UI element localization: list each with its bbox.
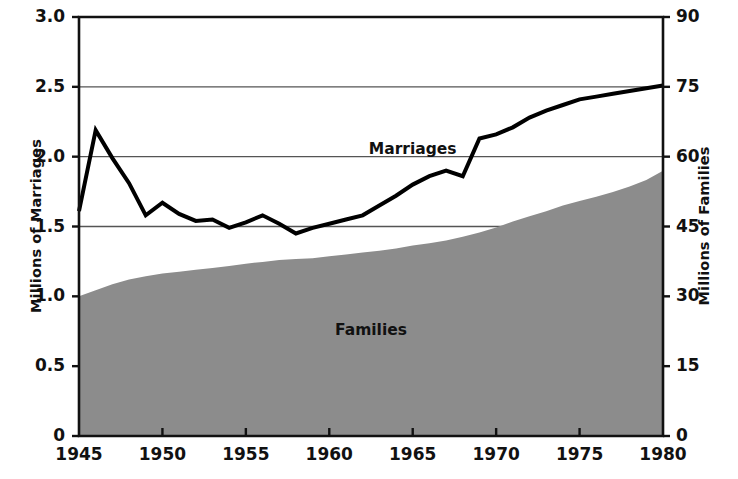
series-annotation: Marriages	[369, 140, 457, 158]
x-axis-tick-label: 1955	[216, 444, 276, 464]
x-axis-tick-label: 1950	[132, 444, 192, 464]
chart-figure: Millions of Marriages Millions of Famili…	[0, 0, 738, 479]
y-axis-left-tick-label: 3.0	[19, 6, 65, 26]
x-axis-tick-label: 1975	[550, 444, 610, 464]
y-axis-right-tick-label: 75	[676, 76, 722, 96]
x-axis-tick-label: 1980	[633, 444, 693, 464]
y-axis-right-tick-label: 15	[676, 355, 722, 375]
y-axis-left-tick-label: 0.5	[19, 355, 65, 375]
y-axis-left-tick-label: 1.0	[19, 285, 65, 305]
y-axis-right-tick-label: 30	[676, 285, 722, 305]
y-axis-left-tick-label: 2.5	[19, 76, 65, 96]
x-axis-tick-label: 1970	[466, 444, 526, 464]
y-axis-right-tick-label: 90	[676, 6, 722, 26]
y-axis-right-tick-label: 45	[676, 216, 722, 236]
y-axis-left-tick-label: 2.0	[19, 146, 65, 166]
x-axis-tick-label: 1960	[299, 444, 359, 464]
series-annotation: Families	[335, 321, 407, 339]
x-axis-tick-label: 1945	[49, 444, 109, 464]
chart-plot-area: MarriagesFamilies	[0, 0, 738, 479]
y-axis-left-tick-label: 0	[19, 425, 65, 445]
y-axis-left-tick-label: 1.5	[19, 216, 65, 236]
y-axis-right-tick-label: 60	[676, 146, 722, 166]
x-axis-tick-label: 1965	[383, 444, 443, 464]
y-axis-right-tick-label: 0	[676, 425, 722, 445]
